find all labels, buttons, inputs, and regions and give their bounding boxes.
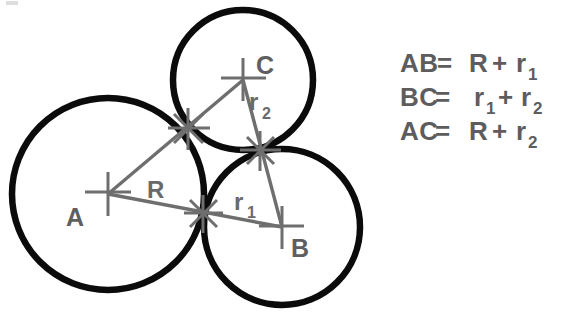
equation-bc-lhs: BC bbox=[400, 82, 438, 112]
label-radius-r2-sub: 2 bbox=[262, 105, 271, 122]
equation-ac-plus: + bbox=[492, 116, 508, 146]
geometry-figure: A C B R r 1 r 2 AB = R + r 1 BC = r 1 + bbox=[0, 0, 570, 314]
equation-ab-term1: R bbox=[469, 48, 488, 78]
label-radius-r2-base: r bbox=[249, 88, 258, 115]
scan-artifact bbox=[6, 1, 18, 5]
tangent-point-bc bbox=[240, 131, 281, 171]
label-center-a: A bbox=[66, 203, 84, 231]
equation-ac-operator: = bbox=[435, 116, 451, 146]
equation-ac-term1: R bbox=[469, 116, 488, 146]
equation-ac-term2-sub: 2 bbox=[528, 133, 537, 152]
equation-bc-term1-base: r bbox=[474, 82, 485, 112]
equation-bc-term2-sub: 2 bbox=[533, 99, 542, 118]
equation-ab-plus: + bbox=[492, 48, 508, 78]
label-radius-R: R bbox=[147, 176, 164, 203]
label-radius-r1: r 1 bbox=[234, 188, 256, 221]
equation-ab-term2-base: r bbox=[516, 48, 527, 78]
equation-ac-lhs: AC bbox=[400, 116, 438, 146]
label-center-b: B bbox=[291, 234, 309, 262]
equation-bc-plus: + bbox=[498, 82, 514, 112]
equation-ab-operator: = bbox=[437, 48, 453, 78]
equation-ab-lhs: AB bbox=[400, 48, 438, 78]
diagram-canvas: A C B R r 1 r 2 AB = R + r 1 BC = r 1 + bbox=[0, 0, 570, 314]
equation-ac: AC = R + r 2 bbox=[400, 116, 537, 152]
equation-bc-operator: = bbox=[435, 82, 451, 112]
equation-ac-term2-base: r bbox=[516, 116, 527, 146]
equation-bc: BC = r 1 + r 2 bbox=[400, 82, 542, 118]
label-radius-r1-base: r bbox=[234, 188, 243, 215]
tangent-point-ab bbox=[184, 195, 223, 233]
equation-bc-term2-base: r bbox=[521, 82, 532, 112]
label-radius-r1-sub: 1 bbox=[247, 204, 256, 221]
label-center-c: C bbox=[256, 51, 274, 79]
equation-ab: AB = R + r 1 bbox=[400, 48, 537, 84]
